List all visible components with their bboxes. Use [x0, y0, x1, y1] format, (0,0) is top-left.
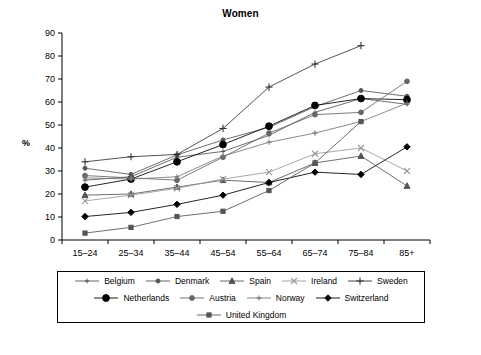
- legend-marker-circle-small-icon: [145, 276, 171, 286]
- x-axis-tick-label: 35–44: [164, 248, 189, 258]
- data-point-marker: [81, 158, 88, 165]
- legend-label: Netherlands: [123, 293, 169, 303]
- legend-label: Switzerland: [345, 293, 389, 303]
- data-point-marker: [358, 153, 364, 159]
- data-point-marker: [85, 278, 89, 282]
- data-point-marker: [267, 188, 271, 192]
- legend-marker-circle-large-icon: [93, 293, 119, 303]
- data-point-marker: [311, 60, 318, 67]
- legend-row: BelgiumDenmarkSpainIrelandSweden: [58, 272, 424, 289]
- data-point-marker: [324, 294, 330, 300]
- data-point-marker: [405, 79, 410, 84]
- legend-label: Ireland: [311, 276, 337, 286]
- data-point-marker: [83, 231, 87, 235]
- data-point-marker: [83, 166, 87, 170]
- y-axis-tick-label: 20: [45, 189, 55, 199]
- legend-label: Denmark: [175, 276, 209, 286]
- data-point-marker: [175, 214, 179, 218]
- y-axis-tick-label: 40: [45, 143, 55, 153]
- series-belgium: [83, 96, 409, 182]
- data-point-marker: [359, 89, 363, 93]
- data-point-marker: [174, 201, 180, 207]
- data-point-marker: [357, 277, 364, 284]
- data-point-marker: [266, 140, 271, 145]
- data-point-marker: [129, 225, 133, 229]
- data-point-marker: [404, 144, 410, 150]
- x-axis-tick-label: 55–64: [256, 248, 281, 258]
- data-point-marker: [312, 130, 317, 135]
- x-axis-tick-label: 15–24: [72, 248, 97, 258]
- legend-entry-spain[interactable]: Spain: [214, 276, 276, 286]
- legend-entry-norway[interactable]: Norway: [241, 293, 310, 303]
- legend-entry-ireland[interactable]: Ireland: [276, 276, 342, 286]
- data-point-marker: [358, 171, 364, 177]
- legend-entry-united-kingdom[interactable]: United Kingdom: [191, 310, 291, 320]
- legend-entry-belgium[interactable]: Belgium: [69, 276, 140, 286]
- legend-label: Sweden: [377, 276, 408, 286]
- data-point-marker: [359, 110, 364, 115]
- series-line: [85, 91, 407, 175]
- data-point-marker: [82, 213, 88, 219]
- data-point-marker: [404, 183, 410, 189]
- chart-legend: BelgiumDenmarkSpainIrelandSwedenNetherla…: [57, 271, 425, 323]
- legend-row: NetherlandsAustriaNorwaySwitzerland: [58, 289, 424, 306]
- data-point-marker: [266, 123, 273, 130]
- data-point-marker: [313, 112, 318, 117]
- data-point-marker: [312, 169, 318, 175]
- y-axis-tick-label: 10: [45, 212, 55, 222]
- data-point-marker: [127, 153, 134, 160]
- data-point-marker: [313, 161, 317, 165]
- x-axis-tick-label: 85+: [399, 248, 414, 258]
- x-axis-tick-label: 75–84: [348, 248, 373, 258]
- data-point-marker: [190, 295, 195, 300]
- y-axis-tick-label: 80: [45, 51, 55, 61]
- data-point-marker: [220, 192, 226, 198]
- series-line: [85, 103, 407, 179]
- data-point-marker: [359, 119, 363, 123]
- legend-marker-diamond-icon: [315, 293, 341, 303]
- legend-marker-circle-mid-icon: [179, 293, 205, 303]
- data-point-marker: [220, 141, 227, 148]
- y-axis-tick-label: 0: [50, 235, 55, 245]
- x-axis-tick-label: 25–34: [118, 248, 143, 258]
- legend-row: United Kingdom: [58, 306, 424, 323]
- legend-marker-plus-large-icon: [347, 276, 373, 286]
- y-axis-tick-label: 50: [45, 120, 55, 130]
- data-point-marker: [174, 158, 181, 165]
- legend-marker-triangle-icon: [219, 276, 245, 286]
- data-point-marker: [128, 209, 134, 215]
- legend-entry-netherlands[interactable]: Netherlands: [88, 293, 174, 303]
- legend-entry-switzerland[interactable]: Switzerland: [310, 293, 394, 303]
- data-point-marker: [357, 42, 364, 49]
- legend-entry-sweden[interactable]: Sweden: [342, 276, 413, 286]
- data-point-marker: [267, 131, 272, 136]
- legend-label: Austria: [209, 293, 235, 303]
- y-axis-tick-label: 70: [45, 74, 55, 84]
- data-point-marker: [312, 102, 319, 109]
- legend-label: Norway: [276, 293, 305, 303]
- series-austria: [83, 79, 410, 183]
- y-axis-title: %: [22, 138, 30, 148]
- data-point-marker: [358, 95, 365, 102]
- y-axis-tick-label: 60: [45, 97, 55, 107]
- y-axis-tick-label: 90: [45, 28, 55, 38]
- x-axis-tick-label: 45–54: [210, 248, 235, 258]
- legend-marker-plus-small-icon: [74, 276, 100, 286]
- data-point-marker: [82, 184, 89, 191]
- data-point-marker: [156, 279, 160, 283]
- data-point-marker: [221, 149, 225, 153]
- legend-entry-denmark[interactable]: Denmark: [140, 276, 214, 286]
- legend-label: United Kingdom: [226, 310, 286, 320]
- data-point-marker: [207, 312, 211, 316]
- data-point-marker: [404, 168, 410, 174]
- legend-label: Belgium: [104, 276, 135, 286]
- legend-marker-cross-x-icon: [281, 276, 307, 286]
- data-point-marker: [221, 209, 225, 213]
- x-axis-tick-label: 65–74: [302, 248, 327, 258]
- data-point-marker: [103, 294, 110, 301]
- chart-figure: Women 0102030405060708090%15–2425–3435–4…: [0, 0, 481, 355]
- legend-entry-austria[interactable]: Austria: [174, 293, 240, 303]
- y-axis-tick-label: 30: [45, 166, 55, 176]
- data-point-marker: [256, 295, 261, 300]
- legend-label: Spain: [249, 276, 271, 286]
